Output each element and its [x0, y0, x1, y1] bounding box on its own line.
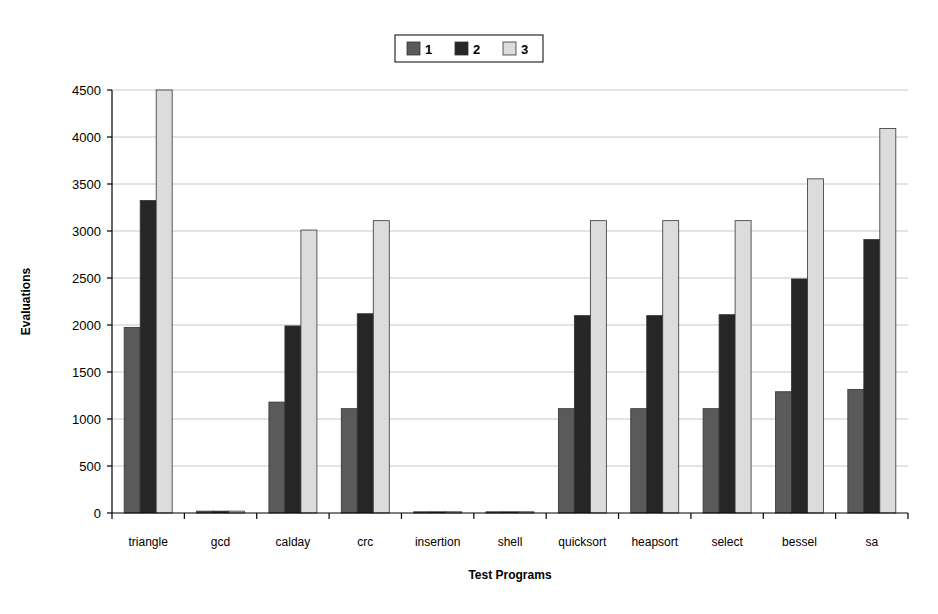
y-tick-label-3500: 3500	[72, 177, 101, 192]
y-tick-label-2500: 2500	[72, 271, 101, 286]
y-tick-label-2000: 2000	[72, 318, 101, 333]
bar-heapsort-series-2	[647, 316, 663, 513]
x-category-label-sa: sa	[865, 535, 878, 549]
x-category-label-triangle: triangle	[129, 535, 169, 549]
bar-triangle-series-1	[124, 327, 140, 513]
y-axis-title: Evaluations	[19, 268, 33, 336]
bar-sa-series-3	[880, 129, 896, 513]
bar-select-series-2	[719, 315, 735, 513]
y-tick-label-4500: 4500	[72, 83, 101, 98]
legend-label-3[interactable]: 3	[521, 42, 528, 57]
x-category-label-shell: shell	[498, 535, 523, 549]
bar-quicksort-series-1	[558, 409, 574, 513]
y-tick-label-500: 500	[79, 459, 101, 474]
bar-heapsort-series-1	[631, 409, 647, 513]
x-category-label-crc: crc	[357, 535, 373, 549]
bar-quicksort-series-3	[590, 221, 606, 513]
bar-triangle-series-2	[140, 200, 156, 513]
x-axis-title: Test Programs	[468, 568, 551, 582]
bar-sa-series-2	[864, 239, 880, 513]
bar-triangle-series-3	[156, 90, 172, 513]
y-tick-label-1000: 1000	[72, 412, 101, 427]
x-category-label-bessel: bessel	[782, 535, 817, 549]
bar-sa-series-1	[848, 389, 864, 513]
chart-legend[interactable]: 123	[395, 35, 543, 62]
chart-figure: 050010001500200025003000350040004500 tri…	[0, 0, 938, 614]
x-category-label-insertion: insertion	[415, 535, 460, 549]
bar-bessel-series-3	[807, 179, 823, 513]
bar-quicksort-series-2	[574, 316, 590, 513]
bar-select-series-3	[735, 221, 751, 513]
legend-swatch-2[interactable]	[455, 42, 468, 55]
bar-crc-series-2	[357, 314, 373, 513]
bar-crc-series-1	[341, 409, 357, 513]
bar-crc-series-3	[373, 221, 389, 513]
bar-bessel-series-2	[791, 279, 807, 513]
bar-bessel-series-1	[775, 392, 791, 513]
x-category-label-gcd: gcd	[211, 535, 230, 549]
x-category-label-select: select	[711, 535, 743, 549]
bar-calday-series-2	[285, 326, 301, 513]
bar-calday-series-3	[301, 230, 317, 513]
y-tick-label-3000: 3000	[72, 224, 101, 239]
y-tick-label-1500: 1500	[72, 365, 101, 380]
legend-swatch-1[interactable]	[407, 42, 420, 55]
bar-calday-series-1	[269, 402, 285, 513]
x-category-label-quicksort: quicksort	[558, 535, 607, 549]
x-category-label-calday: calday	[276, 535, 311, 549]
bar-chart-canvas: 050010001500200025003000350040004500 tri…	[0, 0, 938, 614]
y-tick-label-4000: 4000	[72, 130, 101, 145]
legend-label-2[interactable]: 2	[473, 42, 480, 57]
x-category-label-heapsort: heapsort	[631, 535, 678, 549]
y-tick-label-0: 0	[94, 506, 101, 521]
bar-select-series-1	[703, 409, 719, 513]
legend-swatch-3[interactable]	[503, 42, 516, 55]
bar-heapsort-series-3	[663, 221, 679, 513]
legend-label-1[interactable]: 1	[425, 42, 432, 57]
